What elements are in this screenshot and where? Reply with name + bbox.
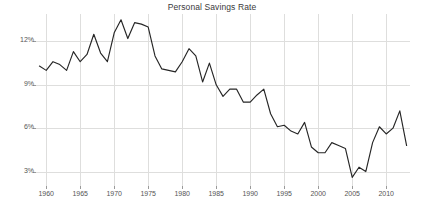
personal-savings-rate-chart: Personal Savings Rate 196019651970197519… [0, 0, 424, 209]
x-tick-label: 1975 [140, 190, 156, 197]
x-tick-label: 1970 [106, 190, 122, 197]
chart-title: Personal Savings Rate [0, 2, 424, 12]
x-tick-mark [352, 186, 353, 189]
x-tick-label: 2000 [310, 190, 326, 197]
x-tick-mark [148, 186, 149, 189]
x-tick-mark [46, 186, 47, 189]
y-tick-label: 12% [0, 36, 34, 43]
x-tick-label: 1995 [276, 190, 292, 197]
series-line-personal-savings-rate [36, 14, 410, 186]
x-tick-mark [80, 186, 81, 189]
x-tick-label: 2005 [344, 190, 360, 197]
y-tick-label: 6% [0, 123, 34, 130]
x-tick-label: 2010 [378, 190, 394, 197]
x-tick-label: 1985 [208, 190, 224, 197]
plot-area [36, 14, 410, 186]
series-polyline [39, 20, 406, 178]
x-tick-label: 1980 [174, 190, 190, 197]
x-tick-label: 1990 [242, 190, 258, 197]
y-tick-label: 9% [0, 80, 34, 87]
y-tick-label: 3% [0, 167, 34, 174]
x-tick-label: 1960 [38, 190, 54, 197]
x-tick-label: 1965 [72, 190, 88, 197]
x-tick-mark [250, 186, 251, 189]
x-tick-mark [114, 186, 115, 189]
x-tick-mark [284, 186, 285, 189]
x-tick-mark [216, 186, 217, 189]
x-tick-mark [182, 186, 183, 189]
x-tick-mark [318, 186, 319, 189]
x-tick-mark [386, 186, 387, 189]
